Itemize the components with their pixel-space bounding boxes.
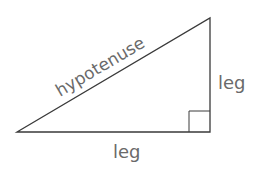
hypotenuse-label: hypotenuse [52,32,148,100]
triangle-outline [17,18,210,132]
right-angle-marker [189,111,210,132]
vertical-leg-label: leg [218,72,246,93]
right-triangle-diagram: hypotenuse leg leg [0,0,259,172]
horizontal-leg-label: leg [113,141,141,162]
